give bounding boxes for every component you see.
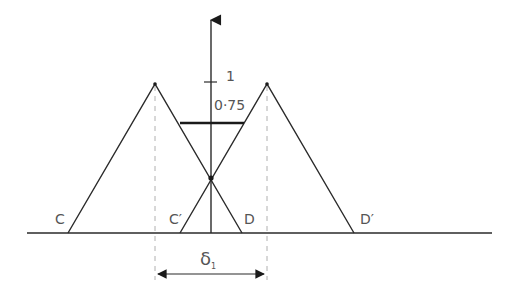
fuzzy-triangles-diagram: 1 0·75 C C′ D D′ δ1 bbox=[0, 0, 510, 300]
left-peak-point bbox=[153, 82, 157, 86]
point-d-label: D bbox=[244, 211, 255, 227]
delta-symbol: δ bbox=[200, 248, 211, 269]
intersection-point bbox=[208, 175, 213, 180]
right-peak-point bbox=[265, 82, 269, 86]
tick-one-label: 1 bbox=[226, 68, 235, 84]
delta-subscript: 1 bbox=[211, 262, 216, 271]
point-cprime-label: C′ bbox=[169, 211, 182, 227]
delta-label: δ1 bbox=[200, 248, 216, 271]
point-dprime-label: D′ bbox=[360, 211, 374, 227]
level-label: 0·75 bbox=[214, 97, 245, 113]
point-c-label: C bbox=[55, 211, 65, 227]
